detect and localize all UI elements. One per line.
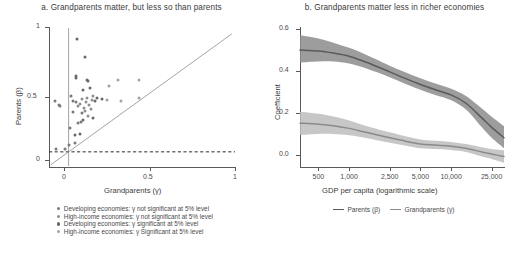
- scatter-point: [87, 80, 90, 83]
- scatter-point: [75, 77, 78, 80]
- panel-b-x-tick-label: 5,000: [409, 173, 431, 180]
- figure-root: a. Grandparents matter, but less so than…: [0, 0, 526, 257]
- panel-b-yticklabel-0_0: 0.0: [279, 150, 289, 157]
- scatter-point: [86, 97, 89, 100]
- scatter-point: [87, 115, 90, 118]
- panel-a-legend: Developing economies: γ not significant …: [57, 205, 213, 235]
- legend-line-icon: [390, 209, 401, 211]
- scatter-point: [69, 95, 72, 98]
- legend-item[interactable]: Developing economies: γ significant at 5…: [57, 220, 213, 228]
- panel-b-plot-area: [300, 28, 504, 166]
- legend-item[interactable]: Parents (β): [333, 206, 380, 213]
- legend-dot-icon: [57, 230, 60, 233]
- scatter-point: [96, 97, 99, 100]
- panel-a-title: a. Grandparents matter, but less so than…: [0, 3, 263, 12]
- scatter-point: [107, 84, 110, 87]
- panel-b-x-axis: [300, 167, 505, 168]
- panel-a-xticklabel-0: 0: [62, 173, 66, 180]
- panel-a-xtick-0_5: [150, 167, 151, 171]
- panel-a-ylabel-1: 1: [36, 22, 40, 29]
- panel-b-x-tick-label: 500: [307, 173, 329, 180]
- scatter-point: [79, 103, 82, 106]
- panel-a-xticklabel-0_5: 0.5: [143, 173, 153, 180]
- scatter-point: [88, 104, 91, 107]
- panel-b-x-tick: [451, 167, 452, 171]
- panel-b-x-tick-label: 10,000: [440, 173, 462, 180]
- legend-item-label: High-income economies: γ not significant…: [64, 213, 213, 220]
- legend-item-label: High-income economies: γ Significant at …: [64, 228, 204, 235]
- panel-b-title: b. Grandparents matter less in richer ec…: [263, 3, 526, 12]
- legend-item[interactable]: High-income economies: γ not significant…: [57, 213, 213, 221]
- scatter-point: [91, 116, 94, 119]
- scatter-point: [101, 97, 104, 100]
- scatter-point: [82, 88, 85, 91]
- legend-dot-icon: [57, 215, 60, 218]
- scatter-point: [74, 133, 77, 136]
- panel-a-xtick-1: [235, 167, 236, 171]
- panel-a-y-axis-label: Parents (β): [14, 87, 23, 125]
- legend-dot-icon: [57, 222, 60, 225]
- legend-item-label: Grandparents (γ): [405, 206, 455, 213]
- panel-b-legend: Parents (β)Grandparents (γ): [333, 206, 454, 213]
- panel-b-x-tick-label: 1,000: [338, 173, 360, 180]
- panel-b-x-tick-label: 2,500: [379, 173, 401, 180]
- scatter-point: [53, 99, 56, 102]
- legend-item[interactable]: Grandparents (γ): [390, 206, 454, 213]
- panel-a-x-axis: [49, 167, 236, 168]
- panel-a-reference-lines: [49, 28, 235, 166]
- scatter-point: [55, 148, 58, 151]
- scatter-point: [74, 142, 77, 145]
- panel-b-yticklabel-0_6: 0.6: [279, 24, 289, 31]
- legend-item-label: Developing economies: γ significant at 5…: [64, 220, 199, 227]
- panel-b-x-tick-label: 25,000: [481, 173, 503, 180]
- panel-a-xtick-0: [64, 167, 65, 171]
- scatter-point: [59, 104, 62, 107]
- scatter-point: [82, 119, 85, 122]
- panel-a-plot-area: [49, 28, 235, 166]
- scatter-point: [83, 110, 86, 113]
- scatter-point: [85, 101, 88, 104]
- scatter-point: [81, 98, 84, 101]
- scatter-point: [76, 38, 79, 41]
- legend-item[interactable]: Developing economies: γ not significant …: [57, 205, 213, 213]
- scatter-point: [137, 78, 140, 81]
- panel-b-yticklabel-0_4: 0.4: [279, 66, 289, 73]
- panel-a-ylabel-0: 0: [36, 155, 40, 162]
- scatter-point: [89, 108, 92, 111]
- legend-dot-icon: [57, 207, 60, 210]
- panel-b: b. Grandparents matter less in richer ec…: [263, 0, 526, 257]
- panel-a-ylabel-0_5: 0.5: [27, 92, 37, 99]
- panel-b-x-tick: [492, 167, 493, 171]
- scatter-point: [119, 100, 122, 103]
- panel-a-identity-line: [51, 34, 232, 165]
- scatter-point: [75, 100, 78, 103]
- scatter-point: [88, 87, 91, 90]
- scatter-point: [93, 100, 96, 103]
- panel-b-y-axis-label: Coefficient: [273, 84, 282, 120]
- panel-b-x-tick: [318, 167, 319, 171]
- panel-b-x-tick: [420, 167, 421, 171]
- legend-item[interactable]: High-income economies: γ Significant at …: [57, 228, 213, 236]
- panel-a-xticklabel-1: 1: [233, 173, 237, 180]
- scatter-point: [69, 126, 72, 129]
- legend-item-label: Developing economies: γ not significant …: [64, 205, 209, 212]
- panel-a-x-axis-label: Grandparents (γ): [104, 186, 161, 195]
- legend-item-label: Parents (β): [347, 206, 380, 213]
- scatter-point: [83, 56, 86, 59]
- panel-b-x-tick: [390, 167, 391, 171]
- panel-b-x-tick: [349, 167, 350, 171]
- panel-a: a. Grandparents matter, but less so than…: [0, 0, 263, 257]
- scatter-point: [78, 133, 81, 136]
- scatter-point: [137, 97, 140, 100]
- confidence-band: [300, 112, 504, 163]
- scatter-point: [64, 148, 67, 151]
- panel-b-series-layer: [300, 28, 504, 166]
- panel-b-x-axis-label: GDP per capita (logarithmic scale): [322, 186, 438, 195]
- scatter-point: [92, 95, 95, 98]
- scatter-point: [105, 98, 108, 101]
- scatter-point: [116, 78, 119, 81]
- legend-line-icon: [333, 209, 344, 211]
- scatter-point: [67, 144, 70, 147]
- scatter-point: [72, 111, 75, 114]
